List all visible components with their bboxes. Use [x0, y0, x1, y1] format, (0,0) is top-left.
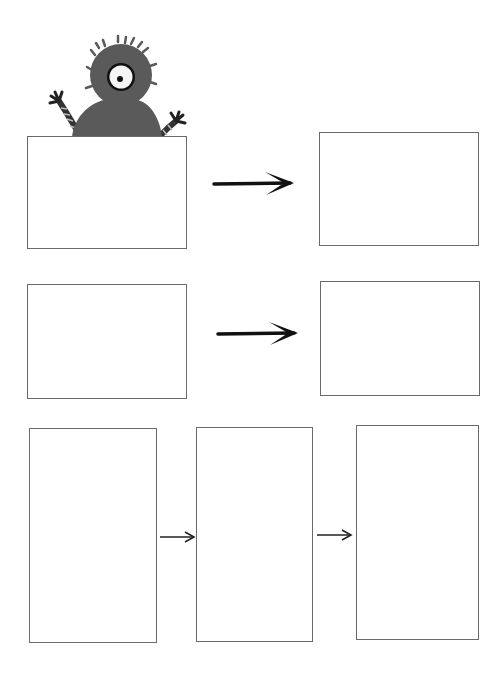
arrow-right-small-icon	[158, 529, 198, 545]
box-label	[30, 429, 31, 430]
arrow-right-icon	[210, 170, 300, 198]
monster-mascot-icon	[40, 30, 200, 140]
box-label	[28, 137, 29, 138]
sequence-box-2[interactable]	[319, 132, 479, 246]
box-label	[320, 133, 321, 134]
left-arm-icon	[50, 92, 78, 132]
right-arm-icon	[160, 112, 185, 136]
sequence-box-3[interactable]	[27, 284, 187, 399]
sequence-box-1[interactable]	[27, 136, 187, 249]
sequence-box-5[interactable]	[29, 428, 157, 643]
box-label	[28, 285, 29, 286]
box-label	[321, 282, 322, 283]
box-label	[197, 428, 198, 429]
arrow-right-small-icon	[315, 527, 355, 543]
sequence-box-6[interactable]	[196, 427, 313, 642]
monster-eye-icon	[107, 63, 135, 91]
arrow-right-icon	[214, 320, 304, 348]
sequence-box-4[interactable]	[320, 281, 480, 396]
box-label	[357, 426, 358, 427]
sequence-box-7[interactable]	[356, 425, 479, 640]
